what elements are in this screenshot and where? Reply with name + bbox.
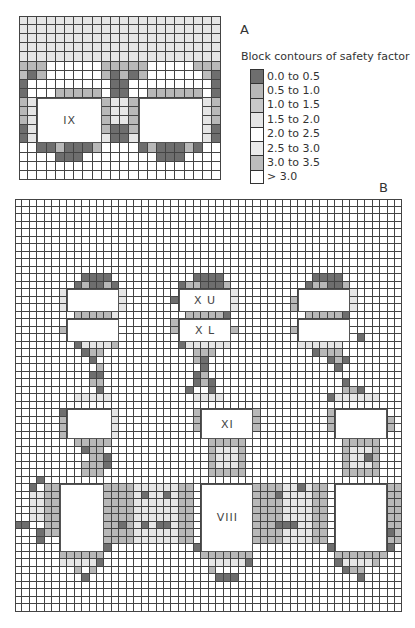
grid-block [395, 214, 402, 222]
grid-block [75, 567, 82, 575]
grid-block [276, 507, 283, 515]
grid-block [82, 379, 89, 387]
grid-block [37, 229, 44, 237]
grid-block [380, 297, 387, 305]
grid-block [119, 529, 126, 537]
grid-block [112, 394, 119, 402]
grid-block [283, 567, 290, 575]
opening-label: X L [195, 324, 215, 337]
grid-block [209, 387, 216, 395]
grid-block [328, 222, 335, 230]
grid-block [22, 604, 29, 612]
grid-block [175, 25, 184, 34]
grid-block [335, 342, 342, 350]
grid-block [134, 484, 141, 492]
grid-block [142, 259, 149, 267]
grid-block [365, 289, 372, 297]
grid-block [239, 477, 246, 485]
grid-block [253, 529, 260, 537]
grid-block [112, 214, 119, 222]
grid-block [216, 462, 223, 470]
grid-block [52, 559, 59, 567]
grid-block [261, 447, 268, 455]
grid-block [358, 574, 365, 582]
grid-block [276, 364, 283, 372]
grid-block [388, 559, 395, 567]
grid-block [268, 312, 275, 320]
grid-block [194, 417, 201, 425]
grid-block [65, 43, 74, 52]
grid-block [268, 274, 275, 282]
grid-block [75, 372, 82, 380]
grid-block [102, 116, 111, 125]
grid-block [179, 462, 186, 470]
grid-block [37, 447, 44, 455]
grid-block [15, 582, 22, 590]
grid-block [149, 312, 156, 320]
grid-block [395, 499, 402, 507]
grid-block [335, 237, 342, 245]
grid-block [104, 252, 111, 260]
grid-block [253, 507, 260, 515]
grid-block [127, 229, 134, 237]
grid-block [239, 289, 246, 297]
grid-block [60, 417, 67, 425]
grid-block [380, 312, 387, 320]
grid-block [335, 574, 342, 582]
grid-block [90, 574, 97, 582]
grid-block [52, 469, 59, 477]
grid-block [83, 71, 92, 80]
grid-block [148, 171, 157, 180]
grid-block [380, 214, 387, 222]
grid-block [239, 582, 246, 590]
grid-block [28, 62, 37, 71]
grid-block [52, 477, 59, 485]
grid-block [112, 604, 119, 612]
grid-block [149, 349, 156, 357]
grid-block [253, 462, 260, 470]
grid-block [97, 402, 104, 410]
grid-block [97, 379, 104, 387]
grid-block [231, 462, 238, 470]
grid-block [60, 574, 67, 582]
grid-block [358, 394, 365, 402]
grid-block [157, 162, 166, 171]
grid-block [37, 477, 44, 485]
grid-block [261, 484, 268, 492]
grid-block [37, 252, 44, 260]
grid-block [185, 171, 194, 180]
grid-block [201, 574, 208, 582]
grid-block [380, 469, 387, 477]
grid-block [380, 567, 387, 575]
legend-swatch [250, 127, 264, 141]
grid-block [246, 319, 253, 327]
grid-block [209, 259, 216, 267]
grid-block [395, 417, 402, 425]
grid-block [388, 387, 395, 395]
grid-block [239, 567, 246, 575]
grid-block [313, 222, 320, 230]
grid-block [298, 274, 305, 282]
grid-block [395, 492, 402, 500]
grid-block [320, 259, 327, 267]
grid-block [56, 34, 65, 43]
grid-block [22, 342, 29, 350]
grid-block [171, 492, 178, 500]
grid-block [253, 372, 260, 380]
grid-block [127, 199, 134, 207]
grid-block [171, 477, 178, 485]
grid-block [164, 282, 171, 290]
grid-block [283, 402, 290, 410]
grid-block [139, 171, 148, 180]
grid-block [231, 274, 238, 282]
grid-block [45, 259, 52, 267]
grid-block [283, 282, 290, 290]
grid-block [127, 469, 134, 477]
grid-block [45, 357, 52, 365]
grid-block [380, 244, 387, 252]
grid-block [194, 544, 201, 552]
grid-block [45, 334, 52, 342]
grid-block [283, 199, 290, 207]
grid-block [28, 98, 37, 107]
grid-panel-b: X UX LXIVIII [15, 199, 402, 612]
